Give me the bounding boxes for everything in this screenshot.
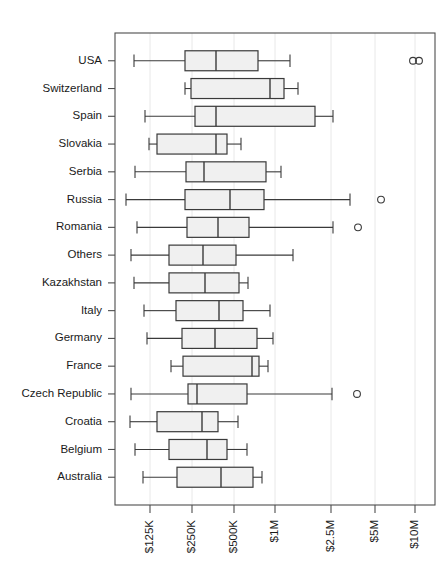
y-axis-label-romania: Romania xyxy=(56,220,103,232)
y-axis-label-slovakia: Slovakia xyxy=(59,137,103,149)
box-russia xyxy=(126,190,384,210)
boxplot-canvas: USASwitzerlandSpainSlovakiaSerbiaRussiaR… xyxy=(0,0,448,575)
box-serbia xyxy=(135,162,281,182)
box-germany xyxy=(147,328,273,348)
y-axis-label-italy: Italy xyxy=(81,304,102,316)
x-axis-label-5M: $5M xyxy=(368,520,380,542)
box-croatia xyxy=(130,412,238,432)
x-axis-label-125K: $125K xyxy=(143,520,155,554)
boxplot-figure: USASwitzerlandSpainSlovakiaSerbiaRussiaR… xyxy=(0,0,448,575)
y-axis-label-russia: Russia xyxy=(67,193,103,205)
box-rect xyxy=(186,162,266,182)
outlier-point xyxy=(354,391,361,398)
y-axis-label-switzerland: Switzerland xyxy=(43,82,102,94)
y-axis-ticks xyxy=(108,61,115,477)
y-axis-label-serbia: Serbia xyxy=(69,165,103,177)
box-rect xyxy=(176,301,243,321)
box-rect xyxy=(183,356,259,376)
box-series xyxy=(126,51,422,487)
y-axis-label-germany: Germany xyxy=(55,331,103,343)
x-axis-label-500K: $500K xyxy=(227,520,239,554)
y-axis-label-kazakhstan: Kazakhstan xyxy=(42,276,102,288)
box-czech-republic xyxy=(131,384,360,404)
x-axis-label-1M: $1M xyxy=(268,520,280,542)
x-axis-label-25M: $2.5M xyxy=(324,520,336,552)
y-axis-label-spain: Spain xyxy=(73,109,102,121)
box-france xyxy=(171,356,268,376)
box-belgium xyxy=(135,439,247,459)
box-australia xyxy=(143,467,262,487)
y-axis-label-usa: USA xyxy=(78,54,102,66)
outlier-point xyxy=(378,196,385,203)
box-rect xyxy=(185,51,258,71)
box-rect xyxy=(177,467,253,487)
y-axis-label-croatia: Croatia xyxy=(65,415,103,427)
box-rect xyxy=(169,439,227,459)
box-usa xyxy=(134,51,422,71)
y-axis-label-others: Others xyxy=(67,248,102,260)
box-slovakia xyxy=(149,134,241,154)
box-romania xyxy=(137,217,361,237)
box-switzerland xyxy=(185,79,298,99)
box-rect xyxy=(195,106,315,126)
x-axis-labels: $125K$250K$500K$1M$2.5M$5M$10M xyxy=(143,520,420,554)
y-axis-labels: USASwitzerlandSpainSlovakiaSerbiaRussiaR… xyxy=(21,54,102,482)
box-rect xyxy=(157,412,218,432)
outlier-point xyxy=(355,224,362,231)
box-rect xyxy=(185,190,264,210)
gridlines xyxy=(150,33,415,505)
box-kazakhstan xyxy=(134,273,248,293)
box-rect xyxy=(182,328,257,348)
y-axis-label-belgium: Belgium xyxy=(60,443,102,455)
x-axis-label-250K: $250K xyxy=(185,520,197,554)
x-axis-ticks xyxy=(150,505,415,513)
x-axis-label-10M: $10M xyxy=(408,520,420,549)
box-others xyxy=(131,245,293,265)
box-rect xyxy=(169,273,239,293)
y-axis-label-australia: Australia xyxy=(57,470,102,482)
y-axis-label-czech-republic: Czech Republic xyxy=(21,387,102,399)
box-italy xyxy=(144,301,270,321)
box-spain xyxy=(145,106,333,126)
y-axis-label-france: France xyxy=(66,359,102,371)
